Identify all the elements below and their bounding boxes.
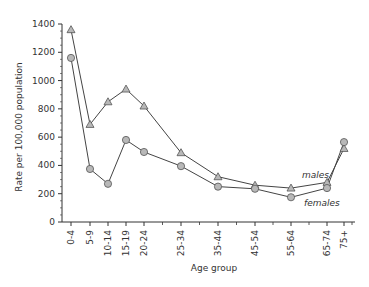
x-tick-label: 5-9 [85, 230, 95, 245]
circle-marker [122, 136, 129, 143]
series-label-males: males [302, 170, 329, 180]
series-label-females: females [304, 198, 340, 208]
y-axis-title: Rate per 100,000 population [14, 62, 24, 191]
circle-marker [67, 54, 74, 61]
circle-marker [340, 138, 347, 145]
x-axis: 0-45-910-1415-1920-2425-3435-4445-5455-6… [62, 222, 355, 256]
triangle-marker [104, 98, 112, 105]
x-tick-label: 25-34 [176, 230, 186, 256]
circle-marker [104, 180, 111, 187]
x-tick-label: 0-4 [66, 230, 76, 245]
triangle-marker [214, 173, 222, 180]
circle-marker [177, 163, 184, 170]
line-chart: 0200400600800100012001400 0-45-910-1415-… [0, 0, 369, 287]
circle-marker [140, 148, 147, 155]
x-tick-label: 65-74 [322, 230, 332, 256]
x-tick-label: 55-64 [286, 230, 296, 256]
y-tick-label: 0 [49, 217, 55, 227]
y-tick-label: 200 [38, 189, 55, 199]
series-line-males [71, 30, 344, 188]
y-tick-label: 800 [38, 104, 55, 114]
x-tick-label: 20-24 [139, 230, 149, 256]
circle-marker [251, 185, 258, 192]
y-tick-label: 1400 [32, 19, 55, 29]
y-tick-label: 400 [38, 160, 55, 170]
circle-marker [214, 183, 221, 190]
x-axis-title: Age group [191, 263, 238, 273]
y-axis: 0200400600800100012001400 [32, 19, 62, 227]
y-tick-label: 600 [38, 132, 55, 142]
y-tick-label: 1200 [32, 47, 55, 57]
circle-marker [287, 194, 294, 201]
triangle-marker [67, 26, 75, 33]
circle-marker [86, 165, 93, 172]
circle-marker [323, 184, 330, 191]
x-tick-label: 45-54 [250, 230, 260, 256]
x-tick-label: 75+ [339, 230, 349, 249]
x-tick-label: 15-19 [121, 230, 131, 256]
triangle-marker [122, 85, 130, 92]
x-tick-label: 10-14 [103, 230, 113, 256]
y-tick-label: 1000 [32, 76, 55, 86]
x-tick-label: 35-44 [213, 230, 223, 256]
